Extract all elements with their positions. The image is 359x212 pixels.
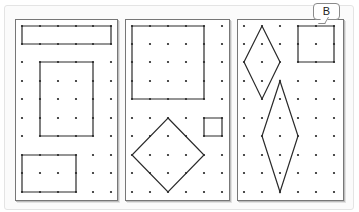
grid-dot bbox=[221, 80, 223, 82]
grid-dot bbox=[185, 61, 187, 63]
grid-dot bbox=[243, 25, 245, 27]
grid-dot bbox=[279, 154, 281, 156]
grid-dot bbox=[333, 172, 335, 174]
grid-dot bbox=[221, 98, 223, 100]
grid-dot bbox=[221, 154, 223, 156]
grid-dot bbox=[243, 135, 245, 137]
rectangle-shape bbox=[22, 26, 111, 44]
grid-dot bbox=[110, 154, 112, 156]
grid-dot bbox=[110, 61, 112, 63]
grid-dot bbox=[167, 172, 169, 174]
grid-dot bbox=[57, 117, 59, 119]
grid-dot bbox=[243, 98, 245, 100]
grid-dot bbox=[185, 43, 187, 45]
grid-dot bbox=[110, 172, 112, 174]
grid-dot bbox=[167, 135, 169, 137]
grid-dot bbox=[92, 154, 94, 156]
grid-dot bbox=[131, 135, 133, 137]
grid-dot bbox=[149, 154, 151, 156]
grid-dot bbox=[221, 172, 223, 174]
grid-dot bbox=[297, 191, 299, 193]
grid-dot bbox=[149, 61, 151, 63]
grid-dot bbox=[185, 80, 187, 82]
grid-dot bbox=[243, 154, 245, 156]
grid-dot bbox=[21, 135, 23, 137]
grid-dot bbox=[261, 191, 263, 193]
grid-dot bbox=[297, 154, 299, 156]
grid-dot bbox=[167, 43, 169, 45]
grid-dot bbox=[185, 117, 187, 119]
grid-dot bbox=[185, 154, 187, 156]
panel-1-content bbox=[21, 25, 112, 193]
grid-dot bbox=[57, 80, 59, 82]
grid-dot bbox=[75, 80, 77, 82]
grid-dot bbox=[297, 172, 299, 174]
grid-dot bbox=[261, 43, 263, 45]
grid-dot bbox=[185, 191, 187, 193]
grid-dot bbox=[315, 154, 317, 156]
grid-dot bbox=[297, 80, 299, 82]
grid-dot bbox=[149, 80, 151, 82]
grid-dot bbox=[131, 172, 133, 174]
grid-dot bbox=[92, 172, 94, 174]
grid-dot bbox=[333, 117, 335, 119]
grid-dot bbox=[131, 191, 133, 193]
grid-dot bbox=[243, 80, 245, 82]
grid-dot bbox=[39, 172, 41, 174]
grid-dot bbox=[149, 117, 151, 119]
grid-dot bbox=[221, 61, 223, 63]
figure-label: B bbox=[313, 3, 340, 20]
grid-dot bbox=[333, 154, 335, 156]
grid-dot bbox=[21, 80, 23, 82]
grid-dot bbox=[279, 117, 281, 119]
grid-dot bbox=[279, 43, 281, 45]
grid-dot bbox=[221, 43, 223, 45]
grid-dot bbox=[110, 80, 112, 82]
grid-dot bbox=[167, 80, 169, 82]
square-shape bbox=[204, 118, 222, 136]
grid-dot bbox=[21, 98, 23, 100]
grid-dot bbox=[261, 117, 263, 119]
grid-dot bbox=[21, 117, 23, 119]
grid-dot bbox=[279, 172, 281, 174]
grid-dot bbox=[279, 25, 281, 27]
grid-dot bbox=[75, 98, 77, 100]
grid-dot bbox=[261, 154, 263, 156]
grid-dot bbox=[57, 172, 59, 174]
grid-dot bbox=[203, 191, 205, 193]
rectangle-shape bbox=[22, 155, 76, 192]
grid-dot bbox=[167, 154, 169, 156]
grid-dot bbox=[110, 117, 112, 119]
rectangle-shape bbox=[40, 62, 93, 136]
grid-dot bbox=[57, 98, 59, 100]
grid-dot bbox=[261, 80, 263, 82]
grid-dot bbox=[243, 191, 245, 193]
grid-dot bbox=[149, 43, 151, 45]
grid-dot bbox=[203, 172, 205, 174]
grid-dot bbox=[110, 191, 112, 193]
grid-dot bbox=[110, 135, 112, 137]
grid-dot bbox=[297, 117, 299, 119]
grid-dot bbox=[149, 191, 151, 193]
grid-dot bbox=[315, 80, 317, 82]
grid-dot bbox=[315, 135, 317, 137]
grid-dot bbox=[21, 61, 23, 63]
grid-dot bbox=[315, 43, 317, 45]
grid-dot bbox=[333, 98, 335, 100]
grid-dot bbox=[75, 117, 77, 119]
grid-dot bbox=[297, 98, 299, 100]
grid-dot bbox=[243, 117, 245, 119]
grid-dot bbox=[131, 117, 133, 119]
panel-3-content bbox=[243, 25, 335, 193]
grid-dot bbox=[261, 172, 263, 174]
grid-dot bbox=[92, 191, 94, 193]
grid-dot bbox=[243, 43, 245, 45]
grid-dot bbox=[315, 172, 317, 174]
grid-dot bbox=[221, 191, 223, 193]
geoboard-drawing bbox=[0, 0, 359, 212]
grid-dot bbox=[333, 80, 335, 82]
grid-dot bbox=[167, 61, 169, 63]
grid-dot bbox=[333, 191, 335, 193]
grid-dot bbox=[315, 98, 317, 100]
grid-dot bbox=[110, 98, 112, 100]
